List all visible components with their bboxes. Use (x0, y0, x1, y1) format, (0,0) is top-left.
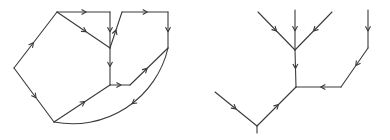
edge-line (54, 85, 110, 122)
edge-arc (54, 48, 168, 124)
right-diagram (215, 10, 370, 133)
edge-line (14, 68, 54, 122)
edge-line (257, 87, 296, 126)
left-diagram (14, 10, 170, 124)
figure-canvas (0, 0, 390, 140)
edge-line (14, 12, 57, 68)
edge-line (57, 12, 110, 48)
edge-line (341, 48, 368, 87)
